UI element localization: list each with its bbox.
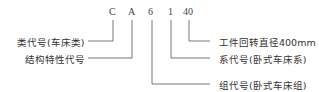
label-workpiece-diameter: 工件回转直径400mm bbox=[219, 35, 316, 49]
label-series-code: 系代号(卧式车床系) bbox=[219, 52, 306, 66]
label-class-code: 类代号(车床类) bbox=[17, 35, 84, 49]
label-structure-code: 结构特性代号 bbox=[25, 52, 85, 66]
label-group-code: 组代号(卧式车床组) bbox=[219, 78, 306, 92]
